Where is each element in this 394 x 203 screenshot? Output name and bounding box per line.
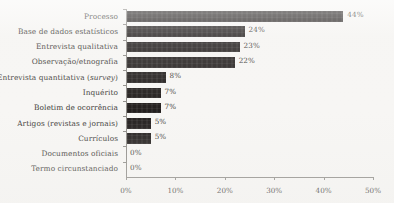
category-label: Termo circunstanciado: [0, 164, 118, 173]
x-axis-tick: [126, 177, 127, 180]
x-axis-tick: [324, 177, 325, 180]
bar-value-label: 0%: [130, 163, 142, 172]
x-axis-tick-label: 30%: [266, 186, 282, 195]
bar-value-label: 44%: [347, 10, 363, 19]
bar: [126, 72, 166, 83]
bar-value-label: 7%: [165, 87, 177, 96]
x-axis-tick: [373, 177, 374, 180]
bar: [126, 118, 151, 129]
bar-chart-figure: ProcessoBase de dados estatísticosEntrev…: [0, 0, 394, 203]
category-label: Entrevista quantitativa (survey): [0, 73, 118, 82]
bar: [126, 42, 240, 53]
bar-value-label: 22%: [239, 56, 255, 65]
bar-row: 0%: [126, 162, 373, 177]
category-label: Artigos (revistas e jornais): [0, 119, 118, 128]
bar-value-label: 8%: [170, 71, 182, 80]
bar-value-label: 0%: [130, 148, 142, 157]
plot-area: 44%24%23%22%8%7%7%5%5%0%0%: [126, 9, 373, 177]
bar-value-label: 5%: [155, 132, 167, 141]
bar: [126, 11, 343, 22]
x-axis-tick-label: 20%: [217, 186, 233, 195]
category-label-emphasis: survey: [90, 73, 115, 82]
category-label: Entrevista qualitativa: [0, 42, 118, 51]
category-label: Documentos oficiais: [0, 149, 118, 158]
x-axis-tick-label: 0%: [120, 186, 131, 195]
category-label: Inquérito: [0, 88, 118, 97]
category-label: Currículos: [0, 134, 118, 143]
bar-row: 5%: [126, 131, 373, 146]
bar-row: 5%: [126, 116, 373, 131]
bar: [126, 88, 161, 99]
x-axis-tick-label: 50%: [365, 186, 381, 195]
bar: [126, 26, 245, 37]
x-axis-tick-label: 10%: [167, 186, 183, 195]
bar-row: 22%: [126, 55, 373, 70]
bar-row: 23%: [126, 40, 373, 55]
bar-row: 8%: [126, 70, 373, 85]
bar-value-label: 23%: [244, 41, 260, 50]
category-label: Base de dados estatísticos: [0, 27, 118, 36]
category-label: Processo: [0, 12, 118, 21]
x-axis-tick: [274, 177, 275, 180]
x-axis-tick: [175, 177, 176, 180]
category-label: Boletim de ocorrência: [0, 103, 118, 112]
bar-value-label: 7%: [165, 102, 177, 111]
x-axis-tick-label: 40%: [316, 186, 332, 195]
x-axis-line: [126, 177, 374, 178]
bar: [126, 133, 151, 144]
bar-row: 24%: [126, 24, 373, 39]
bar-value-label: 5%: [155, 117, 167, 126]
y-axis-line: [126, 9, 127, 178]
bar-row: 7%: [126, 85, 373, 100]
bar-row: 7%: [126, 101, 373, 116]
bar: [126, 57, 235, 68]
bar: [126, 103, 161, 114]
bar-row: 0%: [126, 146, 373, 161]
bar-value-label: 24%: [249, 25, 265, 34]
category-label: Observação/etnografia: [0, 57, 118, 66]
x-axis-tick: [225, 177, 226, 180]
bar-row: 44%: [126, 9, 373, 24]
